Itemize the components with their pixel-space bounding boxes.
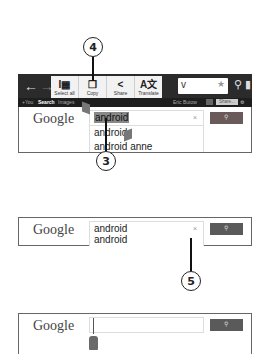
google-search-panel-3: Google ⚲ [18,313,252,354]
search-icon: ⚲ [224,320,228,327]
bookmarks-icon[interactable]: ▮ [245,78,251,91]
gear-icon[interactable]: ⚙ [240,99,244,106]
star-icon[interactable]: ★ [217,79,225,89]
google-bar: +You Search Images Eric Butow Share... ⚙ [18,98,252,107]
search-button[interactable]: ⚲ [210,223,243,235]
select-all-icon: I▦ [59,79,71,90]
translate-icon: A文 [140,79,157,90]
google-logo: Google [33,111,74,127]
search-button[interactable]: ⚲ [210,319,243,331]
search-icon: ⚲ [224,224,228,231]
callout-5: 5 [181,271,201,291]
google-logo: Google [33,222,74,238]
search-input[interactable] [89,317,204,333]
share-button[interactable]: < Share [107,76,135,100]
clear-icon[interactable]: × [193,225,197,232]
callout-3: 3 [96,151,116,171]
back-icon[interactable]: ← [24,78,38,94]
callout-line [190,238,192,271]
callout-line [105,118,107,151]
search-icon: ⚲ [224,113,228,120]
notification-box[interactable] [206,99,213,105]
text-selection-menu: I▦ Select all ❐ Copy < Share A文 Translat… [51,76,162,100]
share-icon: < [118,79,124,90]
link-images[interactable]: Images [58,99,74,106]
url-field[interactable]: v ★ [178,78,228,94]
suggestion-item[interactable]: android [90,126,203,140]
selected-text: android [94,112,129,123]
search-icon[interactable]: ⚲ [234,78,242,91]
clear-icon[interactable]: × [193,114,197,121]
google-logo: Google [33,318,74,334]
google-search-panel-2: Google android × ⚲ android [18,217,252,246]
url-text: v [181,79,186,90]
suggestion-item[interactable]: android [90,234,203,248]
suggestion-list: android [89,234,204,246]
link-plus-you[interactable]: +You [22,99,33,106]
search-query: android [94,223,127,234]
user-name[interactable]: Eric Butow [173,99,197,106]
translate-button[interactable]: A文 Translate [135,76,162,100]
callout-line [92,57,94,81]
search-button[interactable]: ⚲ [210,112,243,124]
share-link[interactable]: Share... [216,99,238,105]
select-all-button[interactable]: I▦ Select all [51,76,79,100]
callout-4: 4 [83,37,103,57]
text-cursor [93,318,94,334]
google-search-panel-1: Google android × ⚲ android android anne [18,107,252,153]
link-search[interactable]: Search [38,99,55,106]
cursor-handle[interactable] [89,336,98,350]
